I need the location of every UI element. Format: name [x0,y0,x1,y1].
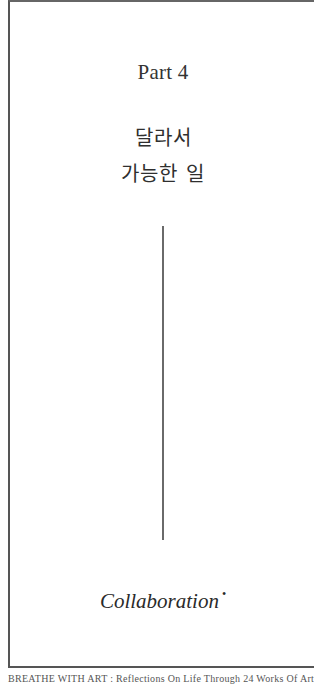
chapter-title-line-2: 가능한 일 [0,158,314,187]
vertical-divider [162,226,164,540]
page-frame [8,0,314,668]
chapter-subtitle: Collaboration• [0,589,314,614]
chapter-title-line-1: 달라서 [0,122,314,151]
subtitle-text: Collaboration [100,589,219,613]
bullet-mark-icon: • [222,587,226,601]
part-label: Part 4 [0,60,314,85]
running-footer: BREATHE WITH ART : Reflections On Life T… [8,673,314,684]
